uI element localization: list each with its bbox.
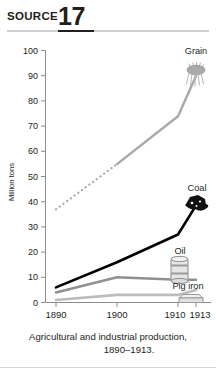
series-label-coal: Coal — [188, 183, 207, 193]
chart-container: Million tons 0 10 20 30 40 50 60 70 80 — [0, 32, 216, 324]
source-number: 17 — [58, 2, 85, 31]
series-pig-iron: Pig iron — [56, 281, 204, 303]
source-word: SOURCE — [7, 10, 58, 22]
series-grain: Grain — [56, 46, 207, 209]
y-tick-label: 50 — [28, 172, 38, 182]
y-tick-label: 30 — [28, 222, 38, 232]
grain-line-solid — [117, 76, 196, 164]
y-tick-label: 10 — [28, 272, 38, 282]
y-tick-label: 80 — [28, 96, 38, 106]
chart-caption: Agricultural and industrial production, … — [0, 330, 216, 356]
x-axis-ticks: 1890 1900 1910 1913 — [45, 303, 210, 321]
x-tick-label: 1910 — [164, 309, 185, 320]
y-tick-label: 40 — [28, 197, 38, 207]
x-tick-label: 1900 — [106, 309, 127, 320]
caption-line-2: 1890–1913. — [0, 343, 216, 356]
y-tick-label: 100 — [23, 46, 38, 56]
y-axis-ticks: 0 10 20 30 40 50 60 70 80 90 100 — [23, 46, 46, 308]
y-tick-label: 20 — [28, 247, 38, 257]
caption-line-1: Agricultural and industrial production, — [0, 330, 216, 343]
wheat-sheaf-icon — [187, 63, 206, 86]
source-header: SOURCE 17 — [0, 4, 216, 32]
x-tick-label: 1913 — [189, 309, 210, 320]
line-chart: Million tons 0 10 20 30 40 50 60 70 80 — [0, 32, 216, 324]
y-tick-label: 0 — [33, 298, 38, 308]
bottom-divider — [0, 367, 216, 368]
iron-ingot-icon — [179, 295, 203, 303]
oil-barrel-icon — [171, 256, 188, 283]
grain-line-dashed — [56, 164, 117, 209]
y-tick-label: 60 — [28, 146, 38, 156]
coal-lump-icon — [185, 195, 208, 211]
series-label-oil: Oil — [174, 246, 185, 256]
y-tick-label: 70 — [28, 121, 38, 131]
series-label-grain: Grain — [185, 46, 207, 56]
y-tick-label: 90 — [28, 71, 38, 81]
pig-iron-line — [56, 290, 196, 300]
series-label-pig-iron: Pig iron — [172, 281, 203, 291]
y-axis-title: Million tons — [7, 163, 16, 201]
x-tick-label: 1890 — [45, 309, 66, 320]
